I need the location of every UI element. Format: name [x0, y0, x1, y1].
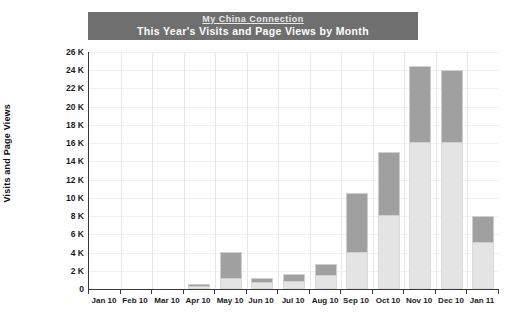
x-axis-tick-mark [466, 290, 467, 294]
bar-segment-visits [220, 279, 242, 289]
horizontal-gridline [89, 216, 499, 217]
x-axis-tick-labels: Jan 10Feb 10Mar 10Apr 10May 10Jun 10Jul … [88, 296, 498, 310]
horizontal-gridline [89, 125, 499, 126]
bar-jul-10 [283, 274, 305, 289]
vertical-gridline [373, 52, 374, 289]
vertical-gridline [341, 52, 342, 289]
bar-apr-10 [188, 284, 210, 289]
bar-segment-page-views [472, 216, 494, 243]
y-axis-tick-label: 16 K [48, 138, 84, 148]
x-axis-tick-mark [435, 290, 436, 294]
bar-may-10 [220, 252, 242, 289]
y-axis-tick-label: 22 K [48, 83, 84, 93]
bar-segment-page-views [346, 193, 368, 252]
bar-jun-10 [251, 278, 273, 289]
vertical-gridline [310, 52, 311, 289]
y-axis-tick-label: 6 K [48, 229, 84, 239]
vertical-gridline [278, 52, 279, 289]
y-axis-tick-label: 10 K [48, 193, 84, 203]
y-axis-tick-label: 12 K [48, 175, 84, 185]
bar-segment-visits [188, 287, 210, 289]
x-axis-tick-label: Dec 10 [438, 296, 464, 305]
horizontal-gridline [89, 70, 499, 71]
y-axis-tick-labels: 02 K4 K6 K8 K10 K12 K14 K16 K18 K20 K22 … [42, 52, 84, 289]
y-axis-tick-label: 24 K [48, 65, 84, 75]
x-axis-tick-label: Jun 10 [248, 296, 273, 305]
x-axis-tick-label: Oct 10 [376, 296, 400, 305]
y-axis-tick-label: 18 K [48, 120, 84, 130]
horizontal-gridline [89, 234, 499, 235]
bar-segment-visits [251, 283, 273, 289]
y-axis-tick-label: 14 K [48, 156, 84, 166]
bar-segment-page-views [378, 152, 400, 216]
bar-segment-page-views [409, 66, 431, 143]
x-axis-tick-label: Mar 10 [154, 296, 179, 305]
bar-segment-visits [315, 276, 337, 289]
bar-sep-10 [346, 193, 368, 289]
horizontal-gridline [89, 161, 499, 162]
horizontal-gridline [89, 52, 499, 53]
bar-segment-page-views [283, 274, 305, 281]
y-axis-title: Visits and Page Views [2, 104, 16, 202]
x-axis-tick-mark [340, 290, 341, 294]
bar-segment-visits [409, 143, 431, 289]
x-axis-tick-mark [372, 290, 373, 294]
bar-segment-visits [283, 282, 305, 289]
plot-area [88, 52, 499, 290]
horizontal-gridline [89, 107, 499, 108]
bar-segment-page-views [441, 70, 463, 143]
bar-segment-visits [378, 216, 400, 289]
bar-dec-10 [441, 70, 463, 289]
vertical-gridline [404, 52, 405, 289]
x-axis-tick-label: Feb 10 [122, 296, 147, 305]
horizontal-gridline [89, 180, 499, 181]
y-axis-tick-label: 20 K [48, 102, 84, 112]
bar-oct-10 [378, 152, 400, 289]
chart-screenshot: My China Connection This Year's Visits a… [0, 0, 505, 317]
vertical-gridline [152, 52, 153, 289]
site-title-link[interactable]: My China Connection [202, 14, 304, 25]
x-axis-tick-label: Aug 10 [312, 296, 339, 305]
bar-jan-11 [472, 216, 494, 289]
x-axis-tick-label: May 10 [217, 296, 244, 305]
horizontal-gridline [89, 198, 499, 199]
bar-segment-visits [441, 143, 463, 289]
x-axis-tick-label: Jan 10 [92, 296, 117, 305]
x-axis-tick-label: Apr 10 [186, 296, 211, 305]
bar-segment-page-views [220, 252, 242, 279]
bar-segment-visits [346, 253, 368, 289]
y-axis-tick-label: 26 K [48, 47, 84, 57]
horizontal-gridline [89, 253, 499, 254]
horizontal-gridline [89, 88, 499, 89]
chart-title-banner: My China Connection This Year's Visits a… [88, 12, 418, 40]
horizontal-gridline [89, 143, 499, 144]
x-axis-tick-mark [183, 290, 184, 294]
x-axis-tick-mark [277, 290, 278, 294]
x-axis-tick-mark [88, 290, 89, 294]
vertical-gridline [436, 52, 437, 289]
chart-title: This Year's Visits and Page Views by Mon… [137, 25, 369, 38]
horizontal-gridline [89, 271, 499, 272]
y-axis-tick-label: 0 [48, 284, 84, 294]
bar-segment-visits [472, 243, 494, 289]
x-axis-tick-mark [151, 290, 152, 294]
x-axis-tick-marks [88, 290, 498, 295]
x-axis-tick-label: Jan 11 [470, 296, 494, 305]
x-axis-tick-mark [309, 290, 310, 294]
vertical-gridline [215, 52, 216, 289]
x-axis-tick-mark [120, 290, 121, 294]
bar-segment-page-views [315, 264, 337, 277]
bar-aug-10 [315, 263, 337, 289]
x-axis-tick-mark [498, 290, 499, 294]
vertical-gridline [184, 52, 185, 289]
vertical-gridline [121, 52, 122, 289]
x-axis-tick-label: Sep 10 [343, 296, 369, 305]
vertical-gridline [247, 52, 248, 289]
x-axis-tick-mark [403, 290, 404, 294]
x-axis-tick-label: Nov 10 [406, 296, 432, 305]
x-axis-tick-label: Jul 10 [282, 296, 305, 305]
y-axis-tick-label: 8 K [48, 211, 84, 221]
x-axis-tick-mark [214, 290, 215, 294]
x-axis-tick-mark [246, 290, 247, 294]
vertical-gridline [467, 52, 468, 289]
